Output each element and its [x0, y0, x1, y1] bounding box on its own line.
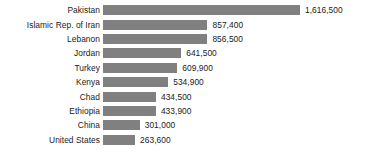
bar — [103, 20, 207, 30]
bar — [103, 5, 300, 15]
value-label: 301,000 — [140, 120, 176, 130]
bar-zone: 433,900 — [100, 106, 368, 116]
bar — [103, 77, 168, 87]
bar — [103, 48, 181, 58]
value-label: 1,616,500 — [300, 5, 343, 15]
category-label: Turkey — [0, 63, 100, 73]
chart-row: Pakistan 1,616,500 — [0, 3, 368, 17]
bar-zone: 301,000 — [100, 120, 368, 130]
bar-zone: 609,900 — [100, 63, 368, 73]
value-label: 609,900 — [177, 63, 213, 73]
chart-row: Lebanon 856,500 — [0, 32, 368, 46]
value-label: 434,500 — [156, 92, 192, 102]
chart-row: United States 263,600 — [0, 133, 368, 147]
category-label: Chad — [0, 92, 100, 102]
bar — [103, 63, 177, 73]
value-label: 534,900 — [168, 77, 204, 87]
bar-zone: 857,400 — [100, 20, 368, 30]
bar-zone: 534,900 — [100, 77, 368, 87]
category-label: Ethiopia — [0, 106, 100, 116]
value-label: 433,900 — [156, 106, 192, 116]
category-label: Pakistan — [0, 5, 100, 15]
value-label: 263,600 — [135, 135, 171, 145]
bar-zone: 641,500 — [100, 48, 368, 58]
bar — [103, 120, 140, 130]
bar — [103, 135, 135, 145]
category-label: Islamic Rep. of Iran — [0, 20, 100, 30]
chart-row: China 301,000 — [0, 118, 368, 132]
bar-zone: 856,500 — [100, 34, 368, 44]
chart-row: Turkey 609,900 — [0, 61, 368, 75]
bar — [103, 92, 156, 102]
value-label: 856,500 — [207, 34, 243, 44]
value-label: 857,400 — [207, 20, 243, 30]
chart-row: Ethiopia 433,900 — [0, 104, 368, 118]
bar-zone: 434,500 — [100, 92, 368, 102]
chart-row: Islamic Rep. of Iran 857,400 — [0, 17, 368, 31]
chart-row: Chad 434,500 — [0, 89, 368, 103]
category-label: Kenya — [0, 77, 100, 87]
chart-row: Kenya 534,900 — [0, 75, 368, 89]
bar-zone: 263,600 — [100, 135, 368, 145]
category-label: Jordan — [0, 48, 100, 58]
chart-row: Jordan 641,500 — [0, 46, 368, 60]
bar — [103, 34, 207, 44]
bar-chart: Pakistan 1,616,500 Islamic Rep. of Iran … — [0, 0, 368, 155]
bar — [103, 106, 156, 116]
category-label: United States — [0, 135, 100, 145]
category-label: Lebanon — [0, 34, 100, 44]
bar-zone: 1,616,500 — [100, 5, 368, 15]
value-label: 641,500 — [181, 48, 217, 58]
category-label: China — [0, 120, 100, 130]
